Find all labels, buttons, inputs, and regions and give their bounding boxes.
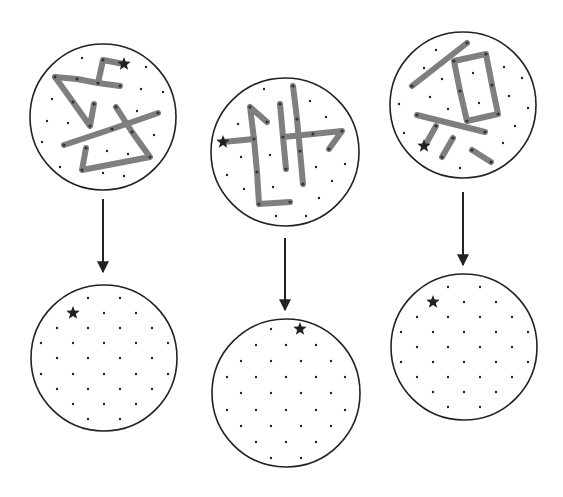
grid-dot [270,392,272,394]
grid-dot [300,392,302,394]
grid-dot [87,418,89,420]
grid-dot [145,66,147,68]
joint-dot [291,84,294,87]
grid-dot [226,376,228,378]
grid-dot [255,441,257,443]
grid-dot [72,403,74,405]
after-circle [31,285,177,431]
grid-dot [315,376,317,378]
grid-dot [432,391,434,393]
grid-dot [72,373,74,375]
panels-group [30,32,537,467]
grid-dot [270,425,272,427]
grid-dot [41,141,43,143]
joint-dot [465,119,468,122]
grid-dot [285,376,287,378]
grid-dot [103,342,105,344]
grid-dot [318,197,320,199]
after-circle-group [31,285,177,431]
grid-dot [511,376,513,378]
grid-dot [447,286,449,288]
grid-dot [416,376,418,378]
grid-dot [40,342,42,344]
grid-dot [102,172,104,174]
joint-dot [278,102,281,105]
grid-dot [119,327,121,329]
grid-dot [447,346,449,348]
grid-dot [56,388,58,390]
joint-dot [295,117,298,120]
grid-dot [416,346,418,348]
grid-dot [226,174,228,176]
grid-dot [315,166,317,168]
grid-dot [508,95,510,97]
grid-dot [162,91,164,93]
grid-dot [255,376,257,378]
joint-dot [130,130,133,133]
panel-1 [30,44,177,431]
joint-dot [470,148,473,151]
joint-dot [96,81,99,84]
grid-dot [275,215,277,217]
grid-dot [463,361,465,363]
joint-dot [410,84,413,87]
before-circle-group [390,32,536,178]
grid-dot [119,297,121,299]
grid-dot [103,312,105,314]
grid-dot [527,107,529,109]
grid-dot [270,360,272,362]
grid-dot [479,316,481,318]
grid-dot [309,100,311,102]
grid-dot [127,153,129,155]
grid-dot [285,409,287,411]
joint-dot [84,146,87,149]
grid-dot [447,316,449,318]
grid-dot [495,361,497,363]
joint-dot [156,111,159,114]
grid-dot [87,327,89,329]
grid-dot [300,360,302,362]
after-circle-group [391,274,537,420]
joint-dot [71,100,74,103]
grid-dot [153,134,155,136]
grid-dot [240,425,242,427]
grid-dot [167,373,169,375]
grid-dot [511,346,513,348]
grid-dot [315,344,317,346]
grid-dot [330,392,332,394]
grid-dot [270,457,272,459]
grid-dot [269,154,271,156]
before-circle-group [211,78,359,226]
grid-dot [495,331,497,333]
grid-dot [495,391,497,393]
joint-dot [265,120,268,123]
grid-dot [151,357,153,359]
grid-dot [123,175,125,177]
joint-dot [496,112,499,115]
grid-dot [403,132,405,134]
joint-dot [490,83,493,86]
grid-dot [344,376,346,378]
joint-dot [340,129,343,132]
grid-dot [140,88,142,90]
grid-dot [87,357,89,359]
grid-dot [72,342,74,344]
grid-dot [46,120,48,122]
grid-dot [479,376,481,378]
grid-dot [447,406,449,408]
grid-dot [285,441,287,443]
joint-dot [327,147,330,150]
grid-dot [285,344,287,346]
joint-dot [252,137,255,140]
grid-dot [103,403,105,405]
grid-dot [495,301,497,303]
after-circle-group [212,319,360,467]
grid-dot [330,425,332,427]
grid-dot [479,346,481,348]
joint-dot [80,168,83,171]
grid-dot [119,357,121,359]
grid-dot [472,72,474,74]
grid-dot [272,186,274,188]
joint-dot [257,202,260,205]
grid-dot [119,418,121,420]
